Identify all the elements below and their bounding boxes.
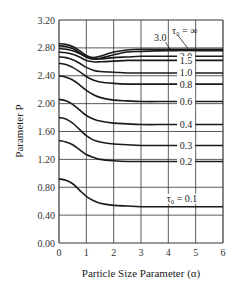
curve-label: τ₀ = 0.1 xyxy=(167,193,198,204)
chart: 0123456 0.000.400.801.201.602.002.402.80… xyxy=(0,0,239,292)
x-tick-labels: 0123456 xyxy=(57,247,226,258)
y-axis-title: Parameter P xyxy=(13,104,25,157)
y-tick-label: 1.20 xyxy=(38,154,56,165)
y-tick-labels: 0.000.400.801.201.602.002.402.803.20 xyxy=(38,15,56,249)
curve-label: 0.2 xyxy=(180,156,193,167)
x-tick-label: 0 xyxy=(57,247,62,258)
curve-label: 1.0 xyxy=(180,67,193,78)
y-tick-label: 3.20 xyxy=(38,15,56,26)
curve-labels: 2.01.51.00.80.60.40.30.2τ₀ = 0.1τ₀ = ∞3.… xyxy=(154,25,202,204)
annotation-tau-infinity: τ₀ = ∞ xyxy=(172,25,197,36)
x-tick-label: 1 xyxy=(84,247,89,258)
x-tick-label: 2 xyxy=(111,247,116,258)
x-tick-label: 3 xyxy=(139,247,144,258)
x-tick-label: 6 xyxy=(221,247,226,258)
leader-line xyxy=(178,35,188,48)
x-tick-label: 4 xyxy=(166,247,171,258)
y-tick-label: 2.80 xyxy=(38,42,56,53)
x-axis-title: Particle Size Parameter (α) xyxy=(82,267,201,280)
y-tick-label: 0.80 xyxy=(38,182,56,193)
curve-label: 1.5 xyxy=(180,55,193,66)
y-tick-label: 1.60 xyxy=(38,126,56,137)
x-tick-label: 5 xyxy=(193,247,198,258)
curve-label: 0.6 xyxy=(180,96,193,107)
y-tick-label: 2.00 xyxy=(38,98,56,109)
curve-label: 0.4 xyxy=(180,119,193,130)
y-tick-label: 2.40 xyxy=(38,70,56,81)
curve-label: 0.8 xyxy=(180,79,193,90)
curve-label: 0.3 xyxy=(180,140,193,151)
annotation-tau-3: 3.0 xyxy=(154,32,167,43)
y-tick-label: 0.40 xyxy=(38,210,56,221)
y-tick-label: 0.00 xyxy=(38,238,56,249)
